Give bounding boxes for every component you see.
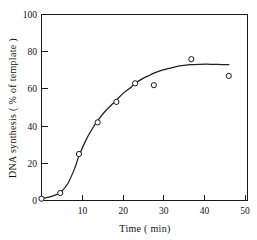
y-axis-title: DNA synthesis ( % of template ) bbox=[7, 38, 19, 178]
chart-figure: 0 20 40 60 80 100 10 20 30 40 50 Time ( … bbox=[0, 0, 257, 240]
chart-background bbox=[0, 0, 257, 240]
y-tick-label-40: 40 bbox=[28, 122, 38, 132]
x-tick-label-40: 40 bbox=[200, 206, 210, 216]
x-tick-label-10: 10 bbox=[78, 206, 88, 216]
y-tick-label-100: 100 bbox=[23, 10, 38, 20]
data-point bbox=[39, 196, 44, 201]
data-point bbox=[133, 81, 138, 86]
data-point bbox=[76, 151, 81, 156]
plot-canvas: 0 20 40 60 80 100 10 20 30 40 50 Time ( … bbox=[0, 0, 257, 240]
x-axis-title: Time ( min) bbox=[119, 223, 170, 235]
data-point bbox=[114, 99, 119, 104]
y-tick-label-0: 0 bbox=[32, 196, 37, 206]
x-tick-label-50: 50 bbox=[240, 206, 250, 216]
data-point bbox=[189, 57, 194, 62]
y-tick-label-80: 80 bbox=[28, 47, 38, 57]
y-tick-label-60: 60 bbox=[28, 84, 38, 94]
x-tick-label-20: 20 bbox=[118, 206, 128, 216]
data-point bbox=[151, 83, 156, 88]
x-tick-label-30: 30 bbox=[159, 206, 169, 216]
data-point bbox=[58, 190, 63, 195]
data-point bbox=[95, 120, 100, 125]
data-point bbox=[226, 73, 231, 78]
y-tick-label-20: 20 bbox=[28, 159, 38, 169]
